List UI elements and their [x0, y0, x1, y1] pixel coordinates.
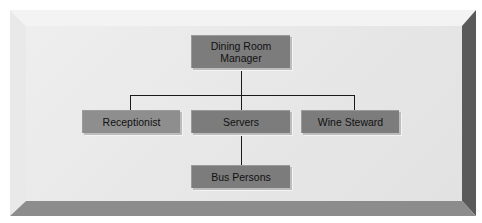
node-label: Wine Steward: [318, 116, 383, 128]
connector-manager-down: [241, 70, 242, 95]
node-label-line1: Dining Room: [211, 40, 272, 52]
node-bus-persons: Bus Persons: [191, 165, 290, 188]
node-label: Servers: [223, 116, 259, 128]
connector-servers-bus: [241, 134, 242, 165]
node-wine-steward: Wine Steward: [301, 110, 399, 133]
connector-servers: [241, 95, 242, 110]
node-label-line2: Manager: [220, 52, 261, 64]
bevel-right: [462, 10, 476, 216]
node-label: Receptionist: [103, 116, 161, 128]
bevel-top: [10, 10, 476, 26]
node-receptionist: Receptionist: [82, 110, 180, 133]
bevel-left: [10, 10, 26, 216]
node-dining-room-manager: Dining Room Manager: [191, 35, 290, 68]
connector-receptionist: [130, 95, 131, 110]
connector-wine-steward: [354, 95, 355, 110]
connector-horizontal: [130, 95, 355, 96]
node-label: Bus Persons: [211, 171, 271, 183]
bevel-bottom: [10, 201, 476, 216]
node-servers: Servers: [191, 110, 290, 133]
